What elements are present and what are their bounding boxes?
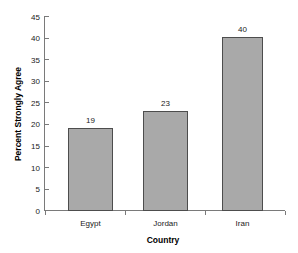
y-tick-labels: 45 40 35 30 25 20 15 10 5 0 — [31, 13, 40, 216]
y-tick-label: 15 — [31, 142, 40, 151]
chart-canvas: 45 40 35 30 25 20 15 10 5 0 19 23 — [0, 0, 298, 253]
y-tick-label: 40 — [31, 34, 40, 43]
y-tick-label: 30 — [31, 77, 40, 86]
x-tick-marks — [45, 211, 285, 216]
y-tick-label: 45 — [31, 13, 40, 22]
y-tick-label: 35 — [31, 56, 40, 65]
bar-series — [69, 38, 263, 211]
y-tick-label: 5 — [36, 185, 41, 194]
x-tick-labels: Egypt Jordan Iran — [80, 219, 249, 228]
y-tick-label: 0 — [36, 207, 41, 216]
bar-iran[interactable] — [223, 38, 263, 211]
y-tick-label: 10 — [31, 164, 40, 173]
bar-value-label: 19 — [86, 116, 95, 125]
bar-jordan[interactable] — [144, 111, 188, 210]
bar-value-label: 40 — [238, 25, 247, 34]
y-axis-title: Percent Strongly Agree — [13, 67, 23, 161]
x-axis-title: Country — [147, 235, 180, 245]
x-category-label: Egypt — [80, 219, 101, 228]
bar-egypt[interactable] — [69, 128, 113, 210]
y-tick-label: 25 — [31, 99, 40, 108]
y-tick-label: 20 — [31, 120, 40, 129]
x-category-label: Iran — [236, 219, 250, 228]
bar-value-label: 23 — [161, 99, 170, 108]
x-category-label: Jordan — [153, 219, 177, 228]
bar-chart-figure: 45 40 35 30 25 20 15 10 5 0 19 23 — [0, 0, 298, 253]
